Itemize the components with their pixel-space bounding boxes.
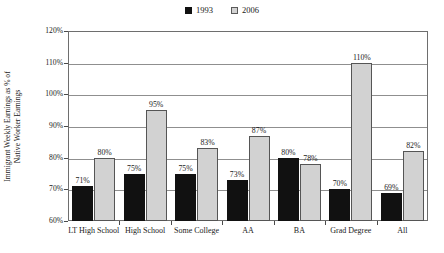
- bar-2006-lt-high-school: [94, 158, 115, 221]
- legend-swatch-1993-icon: [185, 7, 192, 14]
- y-tick-label: 100%: [45, 89, 63, 98]
- bar-1993-grad-degree: [329, 189, 350, 221]
- legend-item-1993: 1993: [185, 6, 213, 15]
- bar-value-label: 78%: [296, 154, 325, 163]
- bar-2006-all: [403, 151, 424, 221]
- bar-value-label: 95%: [142, 100, 171, 109]
- x-tick-mark: [274, 221, 275, 225]
- legend-label-2006: 2006: [242, 6, 259, 15]
- y-tick-label: 120%: [45, 26, 63, 35]
- bar-series-container: 71%80%75%95%75%83%73%87%80%78%70%110%69%…: [68, 31, 428, 221]
- bar-2006-high-school: [146, 110, 167, 221]
- x-axis-label-some-college: Some College: [174, 226, 219, 235]
- bar-1993-high-school: [124, 174, 145, 222]
- bar-2006-aa: [249, 136, 270, 222]
- bar-1993-all: [381, 193, 402, 222]
- x-tick-mark: [171, 221, 172, 225]
- bar-2006-ba: [300, 164, 321, 221]
- bar-1993-some-college: [175, 174, 196, 222]
- bar-1993-lt-high-school: [72, 186, 93, 221]
- bar-2006-grad-degree: [351, 63, 372, 221]
- legend-swatch-2006-icon: [231, 7, 238, 14]
- x-axis-label-high-school: High School: [125, 226, 165, 235]
- legend-item-2006: 2006: [231, 6, 259, 15]
- bar-value-label: 70%: [325, 179, 354, 188]
- bar-value-label: 110%: [347, 53, 376, 62]
- y-axis-ticks: 60%70%80%90%100%110%120%: [0, 31, 68, 221]
- x-tick-mark: [119, 221, 120, 225]
- chart-legend: 1993 2006: [0, 6, 444, 15]
- x-axis-label-all: All: [397, 226, 407, 235]
- bar-1993-ba: [278, 158, 299, 221]
- y-tick-label: 80%: [49, 153, 63, 162]
- x-tick-mark: [325, 221, 326, 225]
- bar-value-label: 87%: [245, 126, 274, 135]
- x-axis-label-lt-high-school: LT High School: [68, 226, 119, 235]
- bar-value-label: 75%: [120, 164, 149, 173]
- bar-value-label: 75%: [171, 164, 200, 173]
- y-tick-label: 90%: [49, 121, 63, 130]
- bar-value-label: 71%: [68, 176, 97, 185]
- bar-value-label: 83%: [193, 138, 222, 147]
- legend-label-1993: 1993: [196, 6, 213, 15]
- y-tick-label: 110%: [46, 58, 63, 67]
- bar-chart: 1993 2006 Immigrant Weekly Earnings as %…: [0, 0, 444, 253]
- x-tick-mark: [377, 221, 378, 225]
- bar-2006-some-college: [197, 148, 218, 221]
- bar-value-label: 73%: [223, 170, 252, 179]
- x-axis-labels: LT High SchoolHigh SchoolSome CollegeAAB…: [68, 226, 428, 242]
- bar-1993-aa: [227, 180, 248, 221]
- y-tick-label: 70%: [49, 184, 63, 193]
- bar-value-label: 82%: [399, 141, 428, 150]
- x-axis-label-aa: AA: [242, 226, 254, 235]
- x-tick-mark: [222, 221, 223, 225]
- y-tick-label: 60%: [49, 216, 63, 225]
- bar-value-label: 69%: [377, 183, 406, 192]
- bar-value-label: 80%: [90, 148, 119, 157]
- x-axis-label-grad-degree: Grad Degree: [330, 226, 371, 235]
- x-axis-label-ba: BA: [294, 226, 305, 235]
